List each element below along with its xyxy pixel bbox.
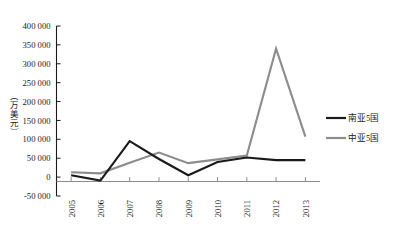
x-tick-label: 2008 — [154, 200, 164, 217]
x-axis-tick-marks — [71, 177, 305, 181]
x-tick-label: 2009 — [184, 200, 194, 217]
y-tick-label: 400 000 — [23, 21, 51, 31]
series-line-south-asia — [71, 141, 305, 180]
series-line-central-asia — [71, 49, 305, 174]
x-tick-label: 2006 — [96, 199, 106, 217]
x-tick-label: 2013 — [301, 200, 311, 217]
y-tick-label: 100 000 — [23, 134, 51, 144]
x-tick-label: 2010 — [213, 200, 223, 217]
chart-canvas: 400 000350 000300 000250 000200 000150 0… — [0, 0, 393, 252]
line-chart: （万美元） 400 000350 000300 000250 000200 00… — [0, 0, 393, 252]
legend-label: 中亚5国 — [348, 132, 379, 143]
y-tick-label: 200 000 — [23, 97, 51, 107]
legend-label: 南亚5国 — [348, 112, 379, 123]
y-tick-label: -50 000 — [24, 191, 51, 201]
y-tick-label: 0 — [46, 172, 50, 182]
y-axis-tick-labels: 400 000350 000300 000250 000200 000150 0… — [23, 21, 51, 201]
y-tick-label: 50 000 — [27, 153, 51, 163]
x-tick-label: 2007 — [125, 199, 135, 217]
y-axis-tick-marks — [57, 26, 61, 196]
chart-legend: 南亚5国中亚5国 — [326, 112, 379, 143]
x-tick-label: 2011 — [242, 200, 252, 217]
x-tick-label: 2012 — [271, 200, 281, 217]
y-tick-label: 350 000 — [23, 40, 51, 50]
y-tick-label: 250 000 — [23, 78, 51, 88]
y-tick-label: 150 000 — [23, 116, 51, 126]
x-axis-tick-labels: 200520062007200820092010201120122013 — [67, 199, 311, 217]
x-tick-label: 2005 — [67, 200, 77, 217]
y-tick-label: 300 000 — [23, 59, 51, 69]
